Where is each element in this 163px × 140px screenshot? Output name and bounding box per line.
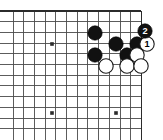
numbered-move-move-2: 2 bbox=[138, 24, 152, 38]
stone-black-d bbox=[88, 48, 102, 62]
star-point-lower-center bbox=[114, 111, 118, 115]
stone-black-a bbox=[88, 26, 102, 40]
go-board-diagram: 12 Go corner sequence diagram bbox=[0, 0, 163, 140]
black-stone bbox=[109, 37, 123, 51]
stone-black-b bbox=[109, 37, 123, 51]
board-grid bbox=[0, 11, 141, 140]
black-stone bbox=[88, 26, 102, 40]
stone-white-c bbox=[120, 59, 134, 73]
move-number-label: 2 bbox=[142, 26, 147, 36]
star-point-upper-left bbox=[50, 42, 54, 46]
stone-white-d bbox=[134, 59, 148, 73]
white-stone bbox=[120, 59, 134, 73]
move-number-label: 1 bbox=[144, 39, 149, 49]
stone-white-b bbox=[99, 59, 113, 73]
numbered-move-move-1: 1 bbox=[140, 37, 154, 51]
board-star-points bbox=[50, 42, 118, 115]
white-stone bbox=[99, 59, 113, 73]
go-board-canvas: 12 bbox=[0, 0, 163, 140]
white-stone bbox=[134, 59, 148, 73]
star-point-lower-left bbox=[50, 111, 54, 115]
black-stone bbox=[88, 48, 102, 62]
